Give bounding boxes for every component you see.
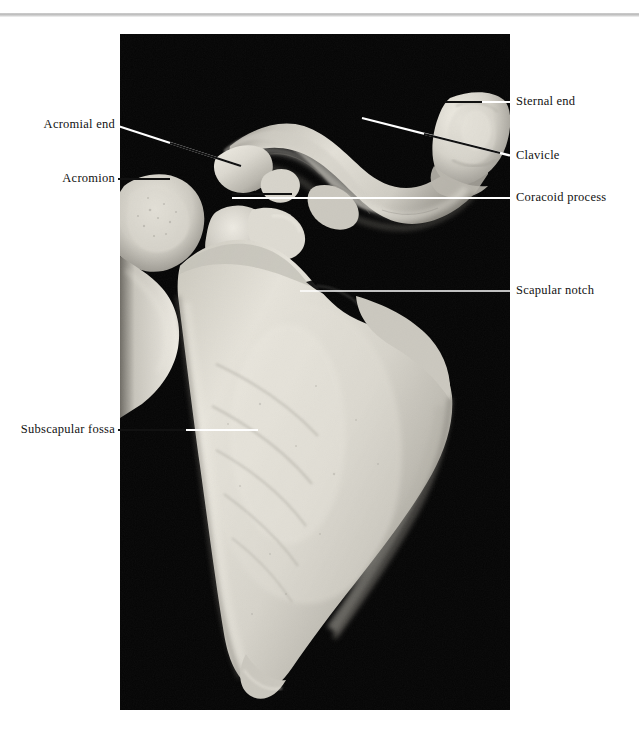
label-sternal-end: Sternal end bbox=[516, 95, 575, 108]
label-coracoid-process: Coracoid process bbox=[516, 191, 606, 204]
running-head-cropped bbox=[0, 0, 639, 8]
page-canvas: Sternal end Clavicle Coracoid process Sc… bbox=[0, 0, 639, 741]
label-acromial-end: Acromial end bbox=[44, 118, 115, 131]
header-rule-shadow bbox=[0, 16, 639, 17]
label-acromion: Acromion bbox=[62, 172, 115, 185]
label-scapular-notch: Scapular notch bbox=[516, 284, 594, 297]
label-clavicle: Clavicle bbox=[516, 149, 560, 162]
specimen-photo-panel bbox=[120, 34, 510, 710]
label-subscapular-fossa: Subscapular fossa bbox=[21, 423, 115, 436]
